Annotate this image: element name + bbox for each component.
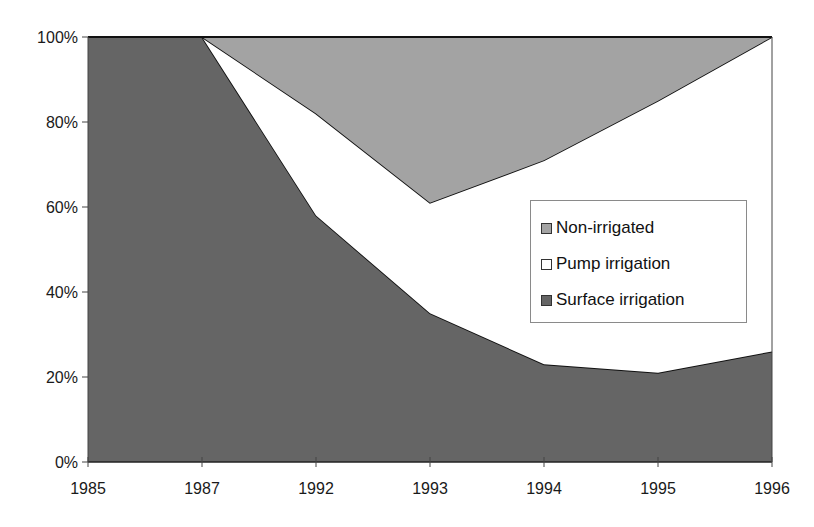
x-tick-label: 1996 [754, 480, 790, 497]
x-tick-label: 1985 [70, 480, 106, 497]
x-tick-label: 1993 [412, 480, 448, 497]
legend-label: Surface irrigation [556, 290, 685, 310]
y-tick-label: 100% [37, 29, 78, 46]
legend: Non-irrigated Pump irrigation Surface ir… [530, 200, 747, 323]
legend-item-pump-irrigation: Pump irrigation [531, 246, 746, 282]
y-tick-label: 80% [46, 114, 78, 131]
y-tick-label: 20% [46, 369, 78, 386]
legend-swatch-non-irrigated [541, 223, 552, 234]
x-tick-label: 1995 [640, 480, 676, 497]
y-axis-ticks: 0%20%40%60%80%100% [37, 29, 88, 471]
x-tick-label: 1992 [298, 480, 334, 497]
y-tick-label: 0% [55, 454, 78, 471]
legend-item-surface-irrigation: Surface irrigation [531, 282, 746, 318]
y-tick-label: 60% [46, 199, 78, 216]
legend-swatch-surface-irrigation [541, 295, 552, 306]
legend-swatch-pump-irrigation [541, 259, 552, 270]
legend-label: Pump irrigation [556, 254, 670, 274]
legend-item-non-irrigated: Non-irrigated [531, 210, 746, 246]
x-tick-label: 1987 [184, 480, 220, 497]
y-tick-label: 40% [46, 284, 78, 301]
legend-label: Non-irrigated [556, 218, 654, 238]
x-axis-ticks: 1985198719921993199419951996 [70, 457, 790, 497]
x-tick-label: 1994 [526, 480, 562, 497]
